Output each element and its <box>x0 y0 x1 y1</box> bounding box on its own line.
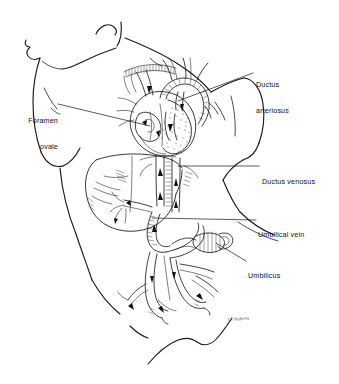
left-subclavian-artery <box>197 63 208 80</box>
left-atrium-outline <box>135 112 161 141</box>
liver-surface-line-1 <box>96 182 120 190</box>
cord-cut-end-left <box>162 318 168 324</box>
right-arm-inner-crease <box>231 96 235 136</box>
right-ventricle-outline <box>163 100 191 154</box>
pulmonary-vein-lower <box>119 120 134 126</box>
cord-cut-end-right <box>204 308 210 315</box>
label-umbilical-vein: Umbilical vein <box>258 214 334 257</box>
pelvic-vessel-right-3 <box>196 276 218 292</box>
right-flank-outline <box>223 180 240 212</box>
hepatic-branch-3 <box>115 208 122 220</box>
hepatic-branch-arrow <box>114 218 118 224</box>
left-hip-outline <box>76 234 92 280</box>
leader-ductus-arteriosus <box>178 73 253 101</box>
umbilical-vein-right-wall <box>156 214 170 247</box>
left-lung-branch-2 <box>131 74 136 92</box>
pulmonary-flow-arrow <box>168 124 173 132</box>
hepatic-branch-1 <box>112 192 124 202</box>
left-arm-outer-outline <box>25 40 40 59</box>
ivc-flow-arrow-2 <box>158 192 163 200</box>
hepatic-branch-4 <box>125 209 126 223</box>
body-outline-group <box>25 22 278 364</box>
pelvic-vessel-right-4 <box>192 280 214 297</box>
umbilical-artery-arrow-3 <box>196 293 203 300</box>
liver-lobe-crease <box>104 176 128 178</box>
leader-umbilical-vein <box>152 218 256 220</box>
left-shoulder-outline <box>62 48 116 69</box>
label-ductus-arteriosus-line1: Ductus <box>256 81 334 90</box>
umbilical-artery-arrow-2 <box>172 272 176 279</box>
hepatic-vein-junction <box>140 164 152 176</box>
label-foramen-ovale: Foramen ovale <box>6 100 58 169</box>
thymus-lower-edge <box>126 70 175 77</box>
cord-clamp-inner <box>222 237 229 246</box>
chin-outline <box>96 25 116 35</box>
label-ductus-venosus-line1: Ductus venosus <box>262 178 338 187</box>
umbilical-artery-arrow-5 <box>128 303 134 310</box>
liver-outline <box>85 160 176 231</box>
label-ductus-arteriosus-line2: arteriosus <box>256 107 334 116</box>
umbilicus-stump-hatching <box>200 232 220 253</box>
leader-foramen-ovale <box>58 104 150 126</box>
ivc-flow-arrow <box>158 168 163 176</box>
label-ductus-venosus: Ductus venosus <box>262 161 338 204</box>
cord-knot-loop <box>172 238 196 244</box>
left-carotid-inner <box>190 58 191 78</box>
label-umbilicus-line1: Umbilicus <box>248 272 318 281</box>
lower-abdomen-outline <box>92 280 120 314</box>
left-torso-outline <box>63 148 80 166</box>
superior-vena-cava-left <box>136 72 146 96</box>
heart-group <box>117 58 209 156</box>
left-flank-outline <box>60 168 76 234</box>
diaphragm-hatching <box>183 172 192 186</box>
pelvic-vessel-right-2 <box>180 270 212 279</box>
ductus-venosus-group <box>140 156 198 212</box>
umbilical-artery-branch <box>164 256 170 300</box>
pelvic-vessel-left-3 <box>118 292 128 300</box>
aortic-arch-inner <box>166 84 204 124</box>
thigh-crease-left <box>130 326 148 338</box>
right-torso-outline <box>223 160 243 180</box>
ductus-venosus-flow-arrow <box>174 178 178 186</box>
leader-lines-group <box>58 73 259 261</box>
right-shoulder-outline <box>211 78 244 92</box>
hip-lower-contour <box>148 318 232 364</box>
label-foramen-ovale-line2: ovale <box>6 143 58 152</box>
pulmonary-vein-upper <box>118 98 136 104</box>
label-foramen-ovale-line1: Foramen <box>6 117 58 126</box>
vena-cava-hatching <box>166 162 171 206</box>
left-lung-branch <box>124 76 130 94</box>
neck-left-outline <box>117 22 121 46</box>
umbilical-artery-arrow-1 <box>150 276 154 283</box>
portal-vein-lower <box>124 206 151 212</box>
right-arm-lower-outline <box>243 143 259 160</box>
liver-group <box>85 154 182 231</box>
inferior-vena-cava-left <box>156 156 157 206</box>
liver-surface-line-3 <box>92 196 112 204</box>
label-ductus-arteriosus: Ductus arteriosus <box>256 64 334 133</box>
brachiocephalic-trunk <box>163 60 172 80</box>
cord-knot-loop-2 <box>174 246 195 250</box>
label-umbilical-vein-line1: Umbilical vein <box>258 231 334 240</box>
left-clavicle-line <box>42 61 62 69</box>
label-umbilicus: Umbilicus <box>248 255 318 298</box>
umbilical-group <box>118 212 233 324</box>
liver-hatching <box>88 170 126 210</box>
fetal-circulation-figure: Foramen ovale Ductus arteriosus Ductus v… <box>0 0 339 384</box>
